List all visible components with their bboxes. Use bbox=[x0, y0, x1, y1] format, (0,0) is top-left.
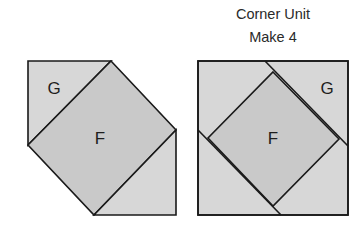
left-unit: G F bbox=[28, 61, 176, 215]
right-f-label: F bbox=[268, 129, 278, 148]
left-g-label: G bbox=[47, 79, 60, 98]
quilt-diagram: G F G F bbox=[0, 0, 364, 242]
right-unit: G F bbox=[198, 61, 348, 215]
right-g-label: G bbox=[320, 79, 333, 98]
left-f-label: F bbox=[95, 129, 105, 148]
